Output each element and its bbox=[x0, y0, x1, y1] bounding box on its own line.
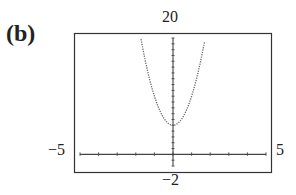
axes bbox=[80, 38, 266, 166]
graph-window bbox=[0, 0, 296, 195]
